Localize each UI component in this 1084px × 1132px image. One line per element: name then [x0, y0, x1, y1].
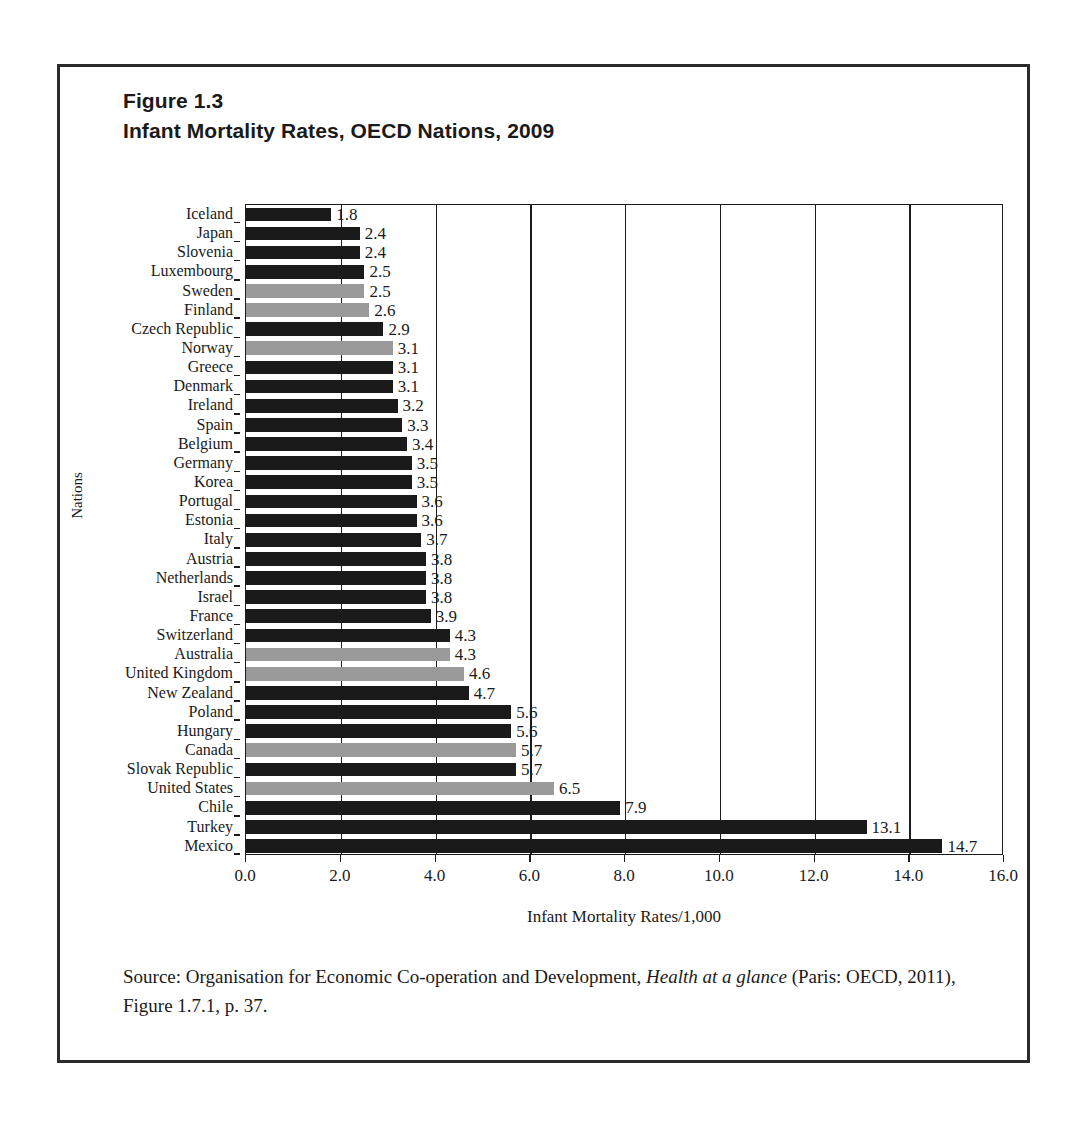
bar-slot: 4.6	[246, 664, 1002, 683]
category-label: Iceland	[60, 204, 240, 223]
bar-slot: 1.8	[246, 205, 1002, 224]
bar-value-label: 3.9	[436, 607, 457, 626]
category-label: Chile	[60, 797, 240, 816]
bar	[246, 763, 516, 777]
bar	[246, 361, 393, 375]
bar-slot: 3.5	[246, 454, 1002, 473]
category-label: Hungary	[60, 721, 240, 740]
bar-slot: 3.4	[246, 435, 1002, 454]
bar	[246, 667, 464, 681]
category-label: Poland	[60, 702, 240, 721]
bar	[246, 456, 412, 470]
bar	[246, 246, 360, 260]
bar-value-label: 3.8	[431, 550, 452, 569]
x-tick-label: 16.0	[988, 866, 1018, 886]
bar-slot: 2.9	[246, 320, 1002, 339]
x-tick-mark	[245, 855, 246, 862]
bar-value-label: 3.7	[426, 530, 447, 549]
bar	[246, 322, 383, 336]
bar-value-label: 2.4	[365, 243, 386, 262]
bar	[246, 284, 364, 298]
source-note: Source: Organisation for Economic Co-ope…	[123, 962, 973, 1020]
bar	[246, 437, 407, 451]
chart-area: Nations IcelandJapanSloveniaLuxembourgSw…	[60, 67, 1027, 1060]
bar	[246, 227, 360, 241]
category-label: United States	[60, 778, 240, 797]
bar-series: 1.82.42.42.52.52.62.93.13.13.13.23.33.43…	[246, 205, 1002, 854]
bar-value-label: 3.6	[422, 492, 443, 511]
bar	[246, 590, 426, 604]
bar	[246, 514, 417, 528]
x-tick-mark	[340, 855, 341, 862]
x-tick-label: 6.0	[519, 866, 540, 886]
bar	[246, 839, 942, 853]
category-label: New Zealand	[60, 683, 240, 702]
bar-value-label: 5.6	[516, 703, 537, 722]
bar-slot: 3.8	[246, 550, 1002, 569]
x-tick-mark	[908, 855, 909, 862]
bar-slot: 2.5	[246, 262, 1002, 281]
bar-slot: 3.9	[246, 607, 1002, 626]
bar-value-label: 14.7	[947, 837, 977, 856]
category-label: Canada	[60, 740, 240, 759]
category-label: Israel	[60, 587, 240, 606]
bar-value-label: 1.8	[336, 205, 357, 224]
bar-slot: 5.6	[246, 703, 1002, 722]
bar	[246, 801, 620, 815]
bar	[246, 743, 516, 757]
bar-slot: 3.1	[246, 358, 1002, 377]
category-label: Denmark	[60, 376, 240, 395]
category-label: United Kingdom	[60, 663, 240, 682]
category-label: Slovak Republic	[60, 759, 240, 778]
plot-area: 1.82.42.42.52.52.62.93.13.13.13.23.33.43…	[245, 204, 1003, 855]
bar-value-label: 3.8	[431, 569, 452, 588]
bar-slot: 3.3	[246, 416, 1002, 435]
bar-value-label: 5.7	[521, 741, 542, 760]
category-tick	[234, 853, 240, 854]
bar-slot: 3.6	[246, 492, 1002, 511]
bar-slot: 3.6	[246, 511, 1002, 530]
category-label: Turkey	[60, 817, 240, 836]
bar-slot: 14.7	[246, 837, 1002, 856]
x-tick-mark	[529, 855, 530, 862]
bar-value-label: 3.3	[407, 416, 428, 435]
bar-slot: 7.9	[246, 798, 1002, 817]
bar-value-label: 2.6	[374, 301, 395, 320]
bar	[246, 495, 417, 509]
bar-slot: 6.5	[246, 779, 1002, 798]
x-tick-label: 4.0	[424, 866, 445, 886]
bar	[246, 571, 426, 585]
bar	[246, 533, 421, 547]
x-tick-label: 12.0	[799, 866, 829, 886]
bar-slot: 5.7	[246, 741, 1002, 760]
bar-value-label: 3.1	[398, 377, 419, 396]
bar-slot: 2.5	[246, 282, 1002, 301]
bar-value-label: 2.4	[365, 224, 386, 243]
category-label: Estonia	[60, 510, 240, 529]
bar-slot: 2.4	[246, 243, 1002, 262]
category-label: Norway	[60, 338, 240, 357]
category-label: Portugal	[60, 491, 240, 510]
bar-value-label: 3.5	[417, 454, 438, 473]
bar-value-label: 3.1	[398, 358, 419, 377]
category-label: Luxembourg	[60, 261, 240, 280]
bar-value-label: 7.9	[625, 798, 646, 817]
bar-slot: 4.3	[246, 626, 1002, 645]
bar-slot: 5.6	[246, 722, 1002, 741]
bar-slot: 4.7	[246, 684, 1002, 703]
bar	[246, 629, 450, 643]
bar-value-label: 3.6	[422, 511, 443, 530]
bar-value-label: 5.7	[521, 760, 542, 779]
x-tick-mark	[624, 855, 625, 862]
bar	[246, 724, 511, 738]
bar	[246, 552, 426, 566]
category-label: France	[60, 606, 240, 625]
bar-value-label: 4.3	[455, 645, 476, 664]
bar	[246, 418, 402, 432]
bar-slot: 3.7	[246, 530, 1002, 549]
category-label: Belgium	[60, 434, 240, 453]
bar-value-label: 6.5	[559, 779, 580, 798]
category-label: Netherlands	[60, 568, 240, 587]
bar-slot: 2.6	[246, 301, 1002, 320]
category-axis-labels: IcelandJapanSloveniaLuxembourgSwedenFinl…	[60, 204, 240, 855]
